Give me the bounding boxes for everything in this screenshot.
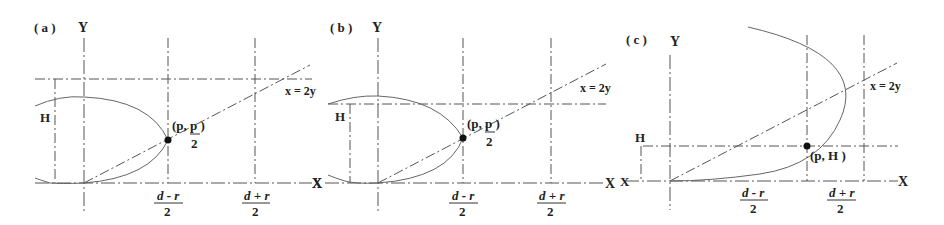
panel-c: ( c ) Y X X H x = 2y (p, H ) d - r 2 d +… — [620, 27, 908, 216]
tick-d-plus-r-numerator: d + r — [244, 188, 270, 203]
point-marker — [165, 137, 172, 144]
line-x-eq-2y — [670, 63, 897, 181]
line-label: x = 2y — [285, 84, 316, 98]
x-axis-label-left: X — [620, 174, 630, 189]
tick-d-minus-r-denominator: 2 — [459, 204, 466, 219]
point-label-denominator: 2 — [486, 134, 493, 149]
point-marker — [460, 135, 467, 142]
panel-b: ( b ) Y X X H x = 2y (p, p ) 2 d - r 2 d… — [312, 20, 615, 219]
height-label: H — [635, 130, 645, 145]
figure-canvas: ( a ) Y X H x = 2y (p, p ) 2 d - r 2 d +… — [0, 0, 944, 225]
tick-d-minus-r-numerator: d - r — [157, 188, 180, 203]
panel-label: ( a ) — [34, 20, 56, 35]
height-label: H — [40, 110, 50, 125]
tick-d-minus-r-numerator: d - r — [742, 185, 765, 200]
y-axis-label: Y — [670, 34, 680, 49]
point-label-denominator: 2 — [191, 136, 198, 151]
point-label: (p, H ) — [810, 148, 846, 163]
x-axis-label-left: X — [312, 176, 322, 191]
y-axis-label: Y — [372, 20, 382, 35]
point-label: (p, p ) — [467, 116, 500, 131]
x-axis-label: X — [898, 174, 908, 189]
tick-d-plus-r-denominator: 2 — [547, 204, 554, 219]
point-label: (p, p ) — [172, 118, 205, 133]
y-axis-label: Y — [78, 20, 88, 35]
tick-d-minus-r-denominator: 2 — [164, 204, 171, 219]
tick-d-plus-r-denominator: 2 — [252, 204, 259, 219]
tick-d-plus-r-numerator: d + r — [829, 185, 855, 200]
tick-d-minus-r-denominator: 2 — [750, 201, 757, 216]
trajectory-curve — [328, 96, 463, 183]
tick-d-plus-r-numerator: d + r — [539, 188, 565, 203]
panel-a: ( a ) Y X H x = 2y (p, p ) 2 d - r 2 d +… — [34, 20, 322, 219]
panel-label: ( c ) — [626, 32, 647, 47]
tick-d-plus-r-denominator: 2 — [837, 201, 844, 216]
tick-d-minus-r-numerator: d - r — [452, 188, 475, 203]
panel-label: ( b ) — [330, 20, 352, 35]
line-label: x = 2y — [580, 81, 611, 95]
line-label: x = 2y — [870, 79, 901, 93]
x-axis-label: X — [605, 176, 615, 191]
height-label: H — [335, 109, 345, 124]
